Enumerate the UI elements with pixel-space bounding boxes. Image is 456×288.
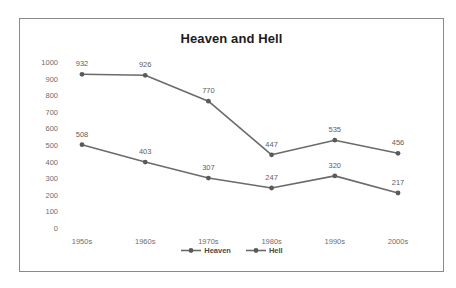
data-point-label: 320	[318, 161, 352, 170]
data-point-label: 535	[318, 125, 352, 134]
y-axis-tick-label: 1000	[24, 58, 58, 67]
y-axis-tick-label: 800	[24, 91, 58, 100]
x-axis-tick-label: 1990s	[310, 237, 360, 246]
series-line	[82, 74, 398, 155]
data-point-marker	[332, 173, 337, 178]
x-axis-tick-label: 1960s	[120, 237, 170, 246]
data-point-marker	[332, 138, 337, 143]
data-point-label: 403	[128, 147, 162, 156]
y-axis-tick-label: 100	[24, 207, 58, 216]
data-point-label: 508	[65, 130, 99, 139]
line-chart-plot	[20, 19, 443, 271]
data-point-marker	[80, 72, 85, 77]
x-axis-tick-label: 1970s	[183, 237, 233, 246]
data-point-marker	[206, 99, 211, 104]
data-point-label: 307	[191, 163, 225, 172]
series-layer	[80, 72, 401, 195]
legend-line-marker-icon	[180, 246, 202, 255]
data-point-marker	[396, 151, 401, 156]
data-point-label: 770	[191, 86, 225, 95]
y-axis-tick-label: 0	[24, 224, 58, 233]
data-point-marker	[143, 160, 148, 165]
chart-legend: HeavenHell	[20, 246, 443, 255]
data-point-marker	[80, 142, 85, 147]
legend-item-heaven[interactable]: Heaven	[180, 246, 231, 255]
legend-line-marker-icon	[245, 246, 267, 255]
y-axis-tick-label: 500	[24, 141, 58, 150]
y-axis-tick-label: 400	[24, 158, 58, 167]
data-point-marker	[206, 176, 211, 181]
data-point-label: 217	[381, 178, 415, 187]
data-point-label: 456	[381, 138, 415, 147]
legend-item-hell[interactable]: Hell	[245, 246, 283, 255]
y-axis-tick-label: 900	[24, 75, 58, 84]
series-heaven	[80, 72, 401, 157]
data-point-marker	[269, 152, 274, 157]
data-point-label: 447	[255, 140, 289, 149]
x-axis-tick-label: 1980s	[247, 237, 297, 246]
x-axis-tick-label: 1950s	[57, 237, 107, 246]
data-point-label: 932	[65, 59, 99, 68]
legend-label: Hell	[269, 246, 283, 255]
data-point-marker	[143, 73, 148, 78]
y-axis-tick-label: 600	[24, 124, 58, 133]
data-point-marker	[396, 191, 401, 196]
y-axis-tick-label: 700	[24, 108, 58, 117]
data-point-marker	[269, 186, 274, 191]
data-point-label: 926	[128, 60, 162, 69]
y-axis-tick-label: 300	[24, 174, 58, 183]
data-point-label: 247	[255, 173, 289, 182]
chart-frame: Heaven and Hell 100090080070060050040030…	[19, 18, 444, 272]
legend-label: Heaven	[204, 246, 231, 255]
y-axis-tick-label: 200	[24, 191, 58, 200]
chart-screenshot: Heaven and Hell 100090080070060050040030…	[0, 0, 456, 288]
x-axis-tick-label: 2000s	[373, 237, 423, 246]
